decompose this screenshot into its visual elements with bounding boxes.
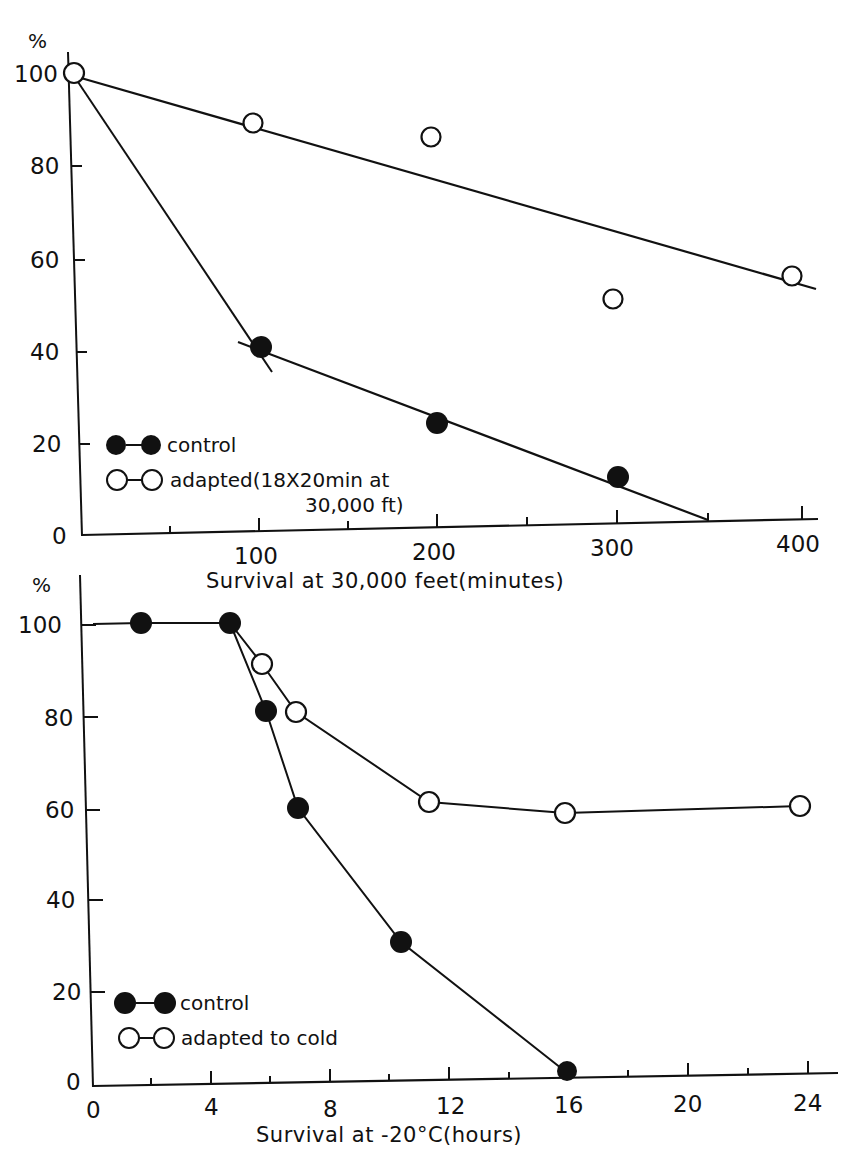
top-y-ticks [71,166,90,444]
bottom-legend-adapted-label: adapted to cold [181,1026,338,1050]
top-legend-adapted-marker [107,470,162,490]
top-adapted-points [64,63,802,309]
bottom-y-label-80: 80 [44,705,73,731]
top-legend-control-marker [106,435,161,455]
bottom-y-label-40: 40 [46,887,75,913]
figure: % 100 80 60 40 20 0 100 200 300 400 Surv… [0,0,854,1160]
top-x-label-400: 400 [776,531,820,557]
bottom-y-label-60: 60 [45,797,74,823]
top-x-axis [82,519,818,535]
top-x-label-200: 200 [412,539,456,565]
bottom-x-label-4: 4 [204,1094,219,1120]
bottom-x-label-0: 0 [86,1097,101,1123]
top-adapted-fit-line [74,76,816,289]
top-y-label-60: 60 [30,247,59,273]
chart-canvas: % 100 80 60 40 20 0 100 200 300 400 Surv… [0,0,854,1160]
bottom-legend: control adapted to cold [114,991,338,1050]
top-control-points [250,336,629,488]
top-y-axis [68,52,82,536]
top-chart: % 100 80 60 40 20 0 100 200 300 400 Surv… [14,29,820,593]
bottom-y-label-20: 20 [52,979,81,1005]
bottom-y-label-100: 100 [18,612,62,638]
top-legend-adapted-label-2: 30,000 ft) [305,493,404,517]
bottom-x-label-8: 8 [323,1096,338,1122]
bottom-x-ticks [151,1061,808,1085]
bottom-x-title: Survival at -20°C(hours) [256,1123,522,1147]
top-legend-adapted-label-1: adapted(18X20min at [170,468,389,492]
bottom-y-axis [80,575,93,1087]
top-y-label-0: 0 [52,523,67,549]
top-x-title: Survival at 30,000 feet(minutes) [206,569,564,593]
top-x-label-100: 100 [234,543,278,569]
bottom-x-axis [93,1073,838,1086]
top-y-label-40: 40 [30,339,59,365]
bottom-x-label-16: 16 [554,1092,583,1118]
bottom-legend-control-label: control [180,991,249,1015]
top-legend-control-label: control [167,433,236,457]
bottom-x-label-20: 20 [673,1091,702,1117]
top-x-label-300: 300 [590,535,634,561]
bottom-adapted-line [230,623,800,813]
bottom-chart: % 100 80 60 40 20 0 0 4 8 12 16 20 24 Su… [18,573,838,1147]
top-y-unit: % [28,29,47,53]
top-y-label-20: 20 [32,431,61,457]
bottom-y-unit: % [32,573,51,597]
bottom-y-ticks [81,625,105,992]
top-legend: control adapted(18X20min at 30,000 ft) [106,433,404,517]
top-control-fit-line-1 [74,76,272,372]
bottom-y-label-0: 0 [66,1069,81,1095]
bottom-legend-control-marker [114,992,176,1014]
bottom-x-label-12: 12 [436,1093,465,1119]
bottom-x-label-24: 24 [793,1090,822,1116]
top-y-label-80: 80 [30,153,59,179]
top-y-label-100: 100 [14,61,58,87]
bottom-legend-adapted-marker [119,1028,174,1048]
